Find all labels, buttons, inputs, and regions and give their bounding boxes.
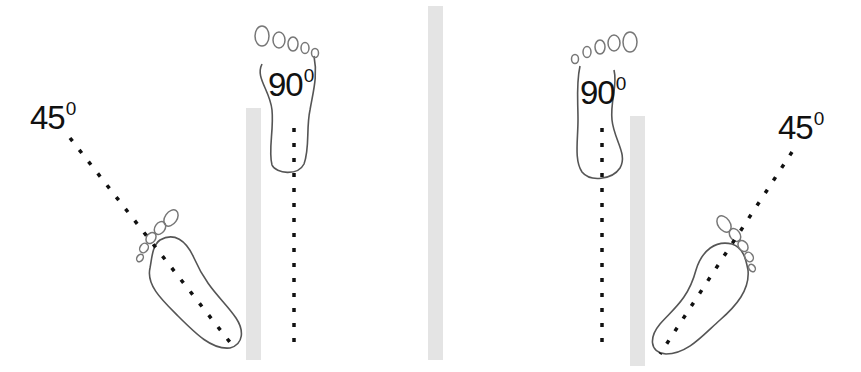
footprint-diagram	[0, 0, 861, 372]
angle-value: 90	[268, 66, 303, 103]
right-90-label: 900	[580, 76, 625, 109]
degree-symbol: 0	[66, 98, 76, 119]
right-45-label: 450	[778, 111, 823, 144]
foot-outline	[652, 243, 748, 354]
left-wall	[246, 108, 261, 360]
right-wall	[630, 116, 645, 366]
left-angled-foot	[135, 207, 241, 348]
left-45-label: 450	[30, 101, 75, 134]
center-divider	[428, 6, 443, 360]
foot-outline	[149, 237, 241, 348]
angle-value: 45	[778, 109, 813, 146]
right-angled-foot	[652, 213, 756, 354]
degree-symbol: 0	[814, 108, 824, 129]
right-45-line	[660, 152, 792, 354]
toes-icon	[572, 32, 638, 64]
left-90-label: 900	[268, 68, 313, 101]
left-45-line	[70, 138, 236, 350]
angle-value: 90	[580, 74, 615, 111]
angle-value: 45	[30, 99, 65, 136]
degree-symbol: 0	[304, 65, 314, 86]
toes-icon	[255, 26, 319, 58]
toes-icon	[135, 207, 181, 263]
degree-symbol: 0	[616, 73, 626, 94]
